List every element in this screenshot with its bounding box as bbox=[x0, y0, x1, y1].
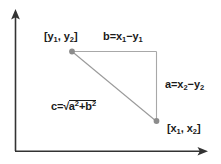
vertex-dot-upper bbox=[69, 49, 75, 55]
bracket-close: ] bbox=[197, 122, 201, 134]
term-1-sub: 2 bbox=[183, 83, 187, 92]
hypotenuse-label: c=√a2+b2 bbox=[51, 100, 96, 112]
term-2-var: b bbox=[85, 100, 92, 112]
term-1-sub: 1 bbox=[122, 35, 126, 44]
point-label-upper: [y1, y2] bbox=[44, 31, 77, 42]
coordinate-var-2: x bbox=[187, 122, 193, 134]
leg-label-vertical: a=x2−y2 bbox=[165, 79, 204, 90]
term-2-sup: 2 bbox=[92, 99, 96, 108]
vertex-dot-lower bbox=[154, 118, 160, 124]
coordinate-var-1: x bbox=[171, 122, 177, 134]
coordinate-sub-2: 2 bbox=[193, 127, 197, 136]
coordinate-var-2: y bbox=[64, 30, 70, 42]
leg-label-horizontal: b=x1−y1 bbox=[103, 31, 143, 42]
term-2-sub: 2 bbox=[200, 83, 204, 92]
term-2-var: y bbox=[132, 30, 138, 42]
term-2-sub: 1 bbox=[139, 35, 143, 44]
term-1-sup: 2 bbox=[75, 99, 79, 108]
coordinate-sub-2: 2 bbox=[70, 35, 74, 44]
point-label-lower: [x1, x2] bbox=[167, 123, 200, 134]
distance-formula-diagram: [y1, y2] b=x1−y1 a=x2−y2 c=√a2+b2 [x1, x… bbox=[0, 0, 221, 164]
term-1-var: a bbox=[69, 100, 75, 112]
vertical-axis-arrow bbox=[11, 9, 20, 151]
coordinate-sub-1: 1 bbox=[177, 127, 181, 136]
horizontal-axis-arrow bbox=[15, 147, 208, 156]
bracket-close: ] bbox=[74, 30, 78, 42]
radical-expression: √a2+b2 bbox=[63, 100, 96, 112]
radicand: a2+b2 bbox=[69, 100, 96, 112]
leg-name-b: b bbox=[103, 30, 110, 42]
coordinate-var-1: y bbox=[48, 30, 54, 42]
coordinate-sub-1: 1 bbox=[54, 35, 58, 44]
